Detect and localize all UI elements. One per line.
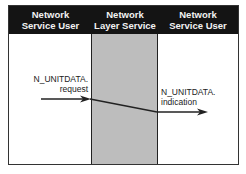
transit-line [90, 99, 157, 112]
primitive-flow-arrows [0, 0, 246, 174]
